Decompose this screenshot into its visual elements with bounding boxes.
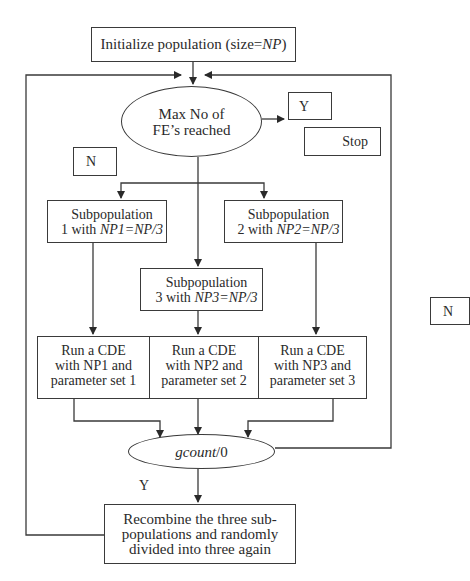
recombine-box: Recombine the three sub-populations and … (104, 504, 296, 564)
yes-bottom-text: Y (139, 478, 149, 493)
gcount-decision: gcount/0 (128, 434, 275, 469)
sub3-line1: Subpopulation (166, 275, 248, 290)
yes-label-box-top: Y (288, 92, 332, 120)
run-cde-1-box: Run a CDEwith NP1 andparameter set 1 (37, 336, 150, 399)
cde2-line1: Run a CDE (172, 343, 237, 358)
cde3-line3: parameter set 3 (270, 373, 356, 388)
cde1-line3: parameter set 1 (51, 373, 137, 388)
sub1-var: NP1=NP/3 (100, 222, 163, 237)
cde1-line2: with NP1 and (55, 358, 132, 373)
max-fe-line1: Max No of (159, 106, 225, 122)
no-left-text: N (86, 154, 96, 169)
stop-box: Stop (304, 127, 381, 156)
no-label-box-right: N (430, 297, 470, 325)
sub2-var: NP2=NP/3 (276, 222, 339, 237)
recombine-line3: divided into three again (129, 541, 271, 557)
run-cde-2-box: Run a CDEwith NP2 andparameter set 2 (149, 336, 259, 399)
subpopulation-1-box: Subpopulation1 with NP1=NP/3 (47, 200, 167, 243)
run-cde-3-box: Run a CDEwith NP3 andparameter set 3 (258, 336, 367, 399)
yes-label-bottom: Y (139, 478, 149, 494)
no-right-text: N (443, 304, 453, 319)
cde3-line1: Run a CDE (280, 343, 345, 358)
init-text: Initialize population (size= (101, 36, 263, 52)
sub1-pre: 1 with (61, 222, 100, 237)
sub1-line1: Subpopulation (71, 207, 153, 222)
max-fe-line2: FE’s reached (153, 122, 231, 138)
max-fe-decision: Max No ofFE’s reached (121, 86, 262, 157)
recombine-line1: Recombine the three sub- (123, 511, 277, 527)
no-label-box-left: N (73, 147, 117, 176)
initialize-population-box: Initialize population (size=NP) (91, 27, 296, 62)
init-tail: ) (281, 36, 286, 52)
cde3-line2: with NP3 and (274, 358, 351, 373)
cde1-line1: Run a CDE (61, 343, 126, 358)
subpopulation-3-box: Subpopulation3 with NP3=NP/3 (140, 268, 263, 311)
yes-top-text: Y (299, 99, 309, 114)
recombine-line2: populations and randomly (122, 526, 279, 542)
gcount-tail: /0 (216, 444, 228, 460)
sub2-line1: Subpopulation (248, 207, 330, 222)
init-var: NP (262, 36, 281, 52)
stop-text: Stop (342, 134, 368, 149)
cde2-line2: with NP2 and (165, 358, 242, 373)
sub2-pre: 2 with (237, 222, 276, 237)
gcount-var: gcount (175, 444, 216, 460)
cde2-line3: parameter set 2 (161, 373, 247, 388)
subpopulation-2-box: Subpopulation2 with NP2=NP/3 (224, 200, 343, 243)
sub3-pre: 3 with (155, 290, 194, 305)
sub3-var: NP3=NP/3 (194, 290, 257, 305)
